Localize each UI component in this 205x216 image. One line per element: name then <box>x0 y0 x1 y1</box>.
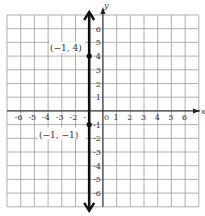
x-tick-label: 4 <box>155 113 160 122</box>
x-tick-label: 0 <box>104 113 109 122</box>
x-tick-label: 3 <box>141 113 146 122</box>
y-tick-label: -5 <box>93 175 101 184</box>
y-tick-label: 2 <box>96 80 101 89</box>
x-tick-label: -6 <box>15 113 23 122</box>
x-tick-label: 2 <box>127 113 132 122</box>
point-marker <box>87 122 92 127</box>
x-tick-label: 5 <box>168 113 173 122</box>
x-tick-label: -4 <box>42 113 50 122</box>
y-tick-label: 5 <box>96 38 101 47</box>
y-tick-label: -6 <box>93 189 101 198</box>
y-tick-label: 1 <box>96 93 101 102</box>
x-axis-label: x <box>201 107 205 116</box>
y-tick-label: -3 <box>93 148 101 157</box>
point-label: (−1, −1) <box>39 130 78 140</box>
y-tick-label: 3 <box>96 66 101 75</box>
y-tick-label: -4 <box>93 162 101 171</box>
y-tick-label: -2 <box>93 134 101 143</box>
x-tick-label: -5 <box>28 113 36 122</box>
y-tick-label: 6 <box>96 25 101 34</box>
x-tick-label: 1 <box>114 113 119 122</box>
x-tick-label: - <box>83 113 86 122</box>
y-axis-label: y <box>103 1 109 10</box>
coordinate-plane: xy-6-5-4-3-2-0123456654321-1-2-3-4-5-6(−… <box>0 0 205 216</box>
x-tick-label: -3 <box>56 113 64 122</box>
point-marker <box>87 54 92 59</box>
y-tick-label: -1 <box>93 121 101 130</box>
point-label: (−1, 4) <box>50 43 82 53</box>
x-tick-label: 6 <box>182 113 187 122</box>
x-tick-label: -2 <box>70 113 78 122</box>
y-tick-label: 4 <box>96 52 101 61</box>
